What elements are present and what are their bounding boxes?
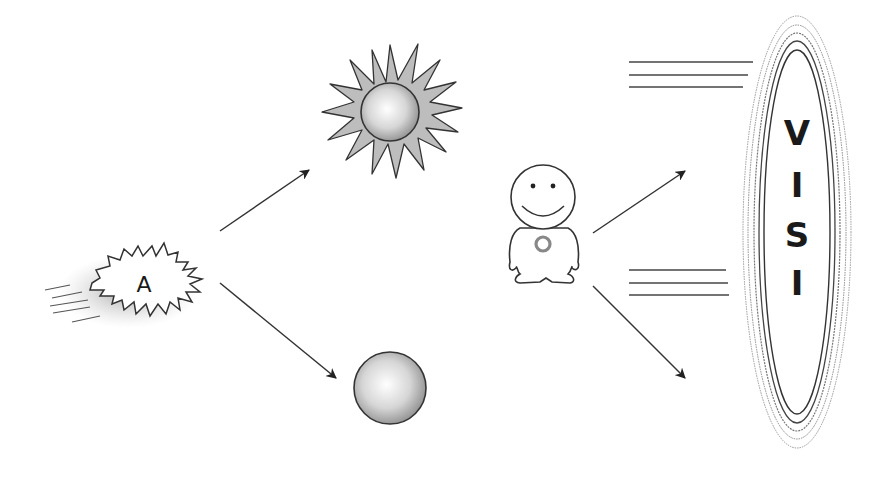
- sphere-icon: [354, 352, 426, 424]
- arrow-to-sphere: [220, 283, 336, 378]
- vision-letter-i2: I: [791, 263, 804, 303]
- vision-letter-v: V: [784, 113, 811, 153]
- burst-icon: A: [45, 243, 202, 328]
- arrow-to-vision-upper: [593, 171, 685, 233]
- sun-icon: [322, 44, 462, 178]
- arrow-to-sun: [220, 170, 309, 231]
- vision-letter-i: I: [791, 165, 804, 205]
- diagram-canvas: A V I S: [0, 0, 884, 495]
- motion-lines-top: [629, 62, 753, 87]
- vision-letter-s: S: [785, 215, 810, 255]
- person-icon: [509, 165, 578, 283]
- vision-text: V I S I: [784, 113, 811, 303]
- burst-label: A: [136, 272, 151, 297]
- motion-lines-bottom: [629, 270, 729, 295]
- arrow-to-vision-lower: [593, 286, 685, 378]
